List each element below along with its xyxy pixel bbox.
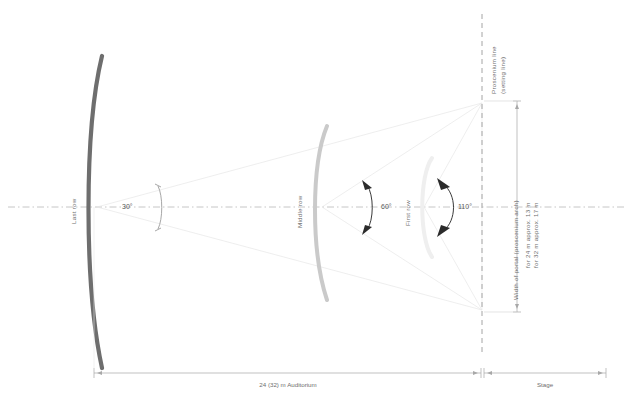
row-label-first-row: First row	[404, 200, 411, 226]
first-row-arc	[422, 158, 432, 257]
arrowhead-60-top	[362, 180, 372, 190]
row-label-middle-row: Middle row	[296, 196, 303, 228]
angle-label-60: 60°	[381, 203, 392, 210]
row-label-last-row: Last row	[70, 199, 77, 224]
portal-width-note-32m: for 32 m approx. 17 m	[532, 202, 539, 268]
setting-line-label: (setting line)	[499, 57, 506, 94]
middle-row-arc	[315, 126, 327, 300]
portal-width-note-24m: for 24 m approx. 13 m	[524, 202, 531, 268]
auditorium-dimension-label: 24 (32) m Auditorium	[188, 381, 388, 388]
proscenium-line-label: Proscenium line	[490, 46, 497, 94]
angle-label-110: 110°	[458, 203, 472, 210]
portal-width-title: Width of portal (proscenium arch)	[512, 200, 519, 300]
auditorium-dimension-line	[94, 368, 481, 378]
stage-dimension-label: Stage	[495, 381, 595, 388]
angle-arc-60	[362, 180, 372, 235]
angle-label-30: 30°	[122, 203, 133, 210]
last-row-arc	[89, 56, 103, 368]
angle-arc-110	[437, 178, 454, 237]
arrowhead-60-bottom	[362, 225, 372, 235]
auditorium-sightline-diagram: Last row Middle row First row 30° 60° 11…	[0, 0, 632, 416]
stage-dimension-line	[484, 368, 606, 378]
